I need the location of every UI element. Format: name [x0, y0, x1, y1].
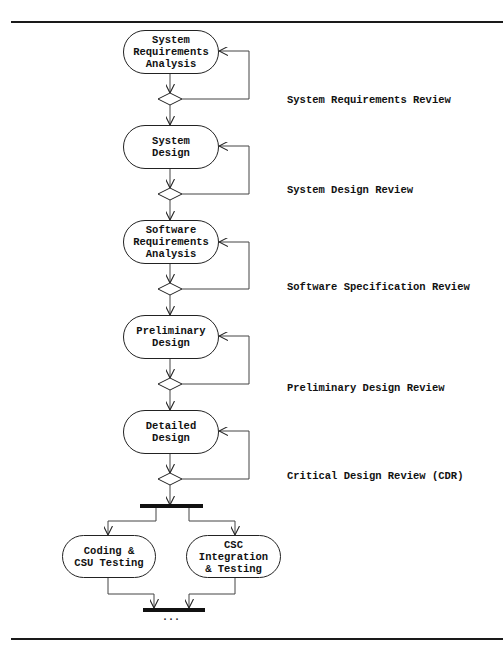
activity-label-line: Design	[152, 432, 190, 444]
activity-label-line: Detailed	[146, 420, 196, 432]
activity-detailed-design: Detailed Design	[123, 410, 219, 454]
activity-csc-integration-testing: CSC Integration & Testing	[186, 535, 281, 578]
activity-label-line: Software	[146, 224, 196, 236]
review-software-specification: Software Specification Review	[287, 281, 470, 293]
activity-coding-csu-testing: Coding & CSU Testing	[62, 535, 156, 578]
activity-label-line: Requirements	[133, 46, 209, 58]
continuation-ellipsis: ...	[162, 612, 180, 623]
activity-label-line: Integration	[199, 551, 268, 563]
fork-bar	[140, 504, 203, 508]
activity-system-requirements-analysis: System Requirements Analysis	[123, 30, 219, 74]
activity-diagram: System Requirements Analysis System Desi…	[0, 0, 503, 650]
activity-software-requirements-analysis: Software Requirements Analysis	[123, 220, 219, 264]
review-system-design: System Design Review	[287, 184, 413, 196]
activity-label-line: & Testing	[205, 563, 262, 575]
activity-label-line: Preliminary	[136, 325, 205, 337]
activity-preliminary-design: Preliminary Design	[123, 315, 219, 359]
activity-label-line: CSC	[224, 539, 243, 551]
activity-label-line: Analysis	[146, 248, 196, 260]
activity-label-line: Analysis	[146, 58, 196, 70]
activity-label-line: Design	[152, 147, 190, 159]
activity-label-line: System	[152, 34, 190, 46]
activity-label-line: Design	[152, 337, 190, 349]
review-critical-design: Critical Design Review (CDR)	[287, 470, 463, 482]
activity-label-line: System	[152, 135, 190, 147]
activity-label-line: Coding &	[84, 545, 134, 557]
activity-system-design: System Design	[123, 125, 219, 169]
activity-label-line: CSU Testing	[74, 557, 143, 569]
review-preliminary-design: Preliminary Design Review	[287, 382, 445, 394]
review-system-requirements: System Requirements Review	[287, 94, 451, 106]
activity-label-line: Requirements	[133, 236, 209, 248]
